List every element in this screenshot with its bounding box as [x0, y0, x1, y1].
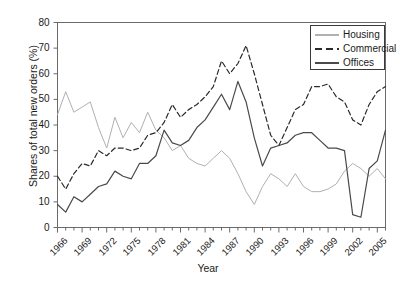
y-tick-label: 10	[24, 196, 50, 207]
y-tick-label: 40	[24, 119, 50, 130]
y-tick-label: 30	[24, 145, 50, 156]
x-axis-title: Year	[0, 262, 416, 274]
chart-figure: Shares of total new orders (%) Year 0102…	[0, 0, 416, 288]
series-line-offices	[58, 81, 386, 217]
y-tick-label: 70	[24, 42, 50, 53]
legend-label-commercial: Commercial	[343, 42, 396, 56]
legend-swatch-housing	[315, 34, 339, 36]
legend-label-housing: Housing	[343, 28, 380, 42]
y-tick-label: 0	[24, 222, 50, 233]
legend-swatch-commercial	[315, 48, 339, 50]
y-tick-label: 80	[24, 17, 50, 28]
chart-legend: Housing Commercial Offices	[310, 25, 385, 70]
y-tick-label: 20	[24, 170, 50, 181]
y-tick-label: 60	[24, 68, 50, 79]
y-tick-label: 50	[24, 93, 50, 104]
legend-swatch-offices	[315, 62, 339, 64]
legend-label-offices: Offices	[343, 56, 374, 70]
